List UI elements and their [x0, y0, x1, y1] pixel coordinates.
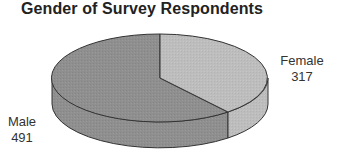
label-female-value: 317 — [276, 69, 328, 85]
label-male-value: 491 — [2, 130, 42, 146]
label-male: Male 491 — [2, 114, 42, 146]
label-female: Female 317 — [276, 53, 328, 85]
label-female-name: Female — [276, 53, 328, 69]
label-male-name: Male — [2, 114, 42, 130]
